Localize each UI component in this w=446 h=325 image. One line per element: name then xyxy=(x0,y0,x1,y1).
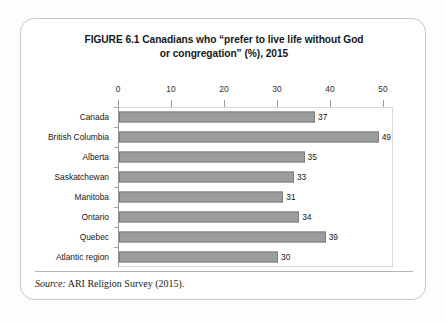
x-axis-tick xyxy=(171,100,172,107)
y-axis-tick xyxy=(114,247,118,248)
y-axis-tick xyxy=(114,127,118,128)
category-label: Alberta xyxy=(82,152,109,162)
y-axis-tick xyxy=(114,147,118,148)
x-axis-tick-label: 20 xyxy=(219,84,228,94)
category-label: Quebec xyxy=(80,232,109,242)
bar-value-label: 49 xyxy=(382,132,391,142)
source-label: Source: xyxy=(35,278,66,289)
y-axis-tick xyxy=(114,187,118,188)
x-axis-tick-label: 40 xyxy=(325,84,334,94)
y-axis-tick xyxy=(114,167,118,168)
bar xyxy=(119,192,283,203)
bar xyxy=(119,132,379,143)
bar xyxy=(119,232,326,243)
x-axis-tick-label: 50 xyxy=(378,84,387,94)
source-divider xyxy=(35,271,413,272)
category-label: British Columbia xyxy=(48,132,109,142)
x-axis-tick-label: 10 xyxy=(166,84,175,94)
bar-value-label: 31 xyxy=(286,192,295,202)
y-axis-tick xyxy=(114,227,118,228)
bar-value-label: 39 xyxy=(329,232,338,242)
bar-value-label: 30 xyxy=(281,252,290,262)
x-axis-tick xyxy=(224,100,225,107)
category-label: Saskatchewan xyxy=(55,172,109,182)
bar xyxy=(119,152,305,163)
y-axis-tick xyxy=(114,107,118,108)
x-axis-tick xyxy=(383,100,384,107)
category-label: Canada xyxy=(80,112,109,122)
bar xyxy=(119,172,294,183)
figure-card: FIGURE 6.1 Canadians who “prefer to live… xyxy=(20,18,426,300)
bar-value-label: 34 xyxy=(302,212,311,222)
bar-chart: 01020304050 CanadaBritish ColumbiaAlbert… xyxy=(21,81,427,271)
bar-value-label: 37 xyxy=(318,112,327,122)
bar-value-label: 35 xyxy=(308,152,317,162)
category-label: Atlantic region xyxy=(56,252,109,262)
category-label: Ontario xyxy=(82,212,109,222)
bar-value-label: 33 xyxy=(297,172,306,182)
source-note: Source: ARI Religion Survey (2015). xyxy=(35,278,184,289)
x-axis-tick-label: 30 xyxy=(272,84,281,94)
x-axis-tick-label: 0 xyxy=(116,84,121,94)
figure-title: FIGURE 6.1 Canadians who “prefer to live… xyxy=(39,33,409,61)
category-label: Manitoba xyxy=(75,192,109,202)
figure-title-line-1: FIGURE 6.1 Canadians who “prefer to live… xyxy=(39,33,409,47)
x-axis-tick xyxy=(330,100,331,107)
bar xyxy=(119,252,278,263)
y-axis-tick xyxy=(114,207,118,208)
x-axis-tick xyxy=(118,100,119,107)
bar xyxy=(119,112,315,123)
bar xyxy=(119,212,299,223)
source-text: ARI Religion Survey (2015). xyxy=(66,278,185,289)
figure-title-line-2: or congregation” (%), 2015 xyxy=(39,47,409,61)
x-axis-tick xyxy=(277,100,278,107)
